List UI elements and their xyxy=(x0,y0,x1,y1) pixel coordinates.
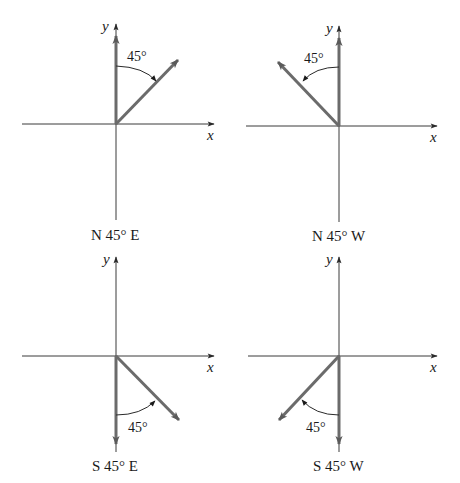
x-axis-label: x xyxy=(429,359,437,375)
angle-arc xyxy=(116,401,155,415)
panel-n45e: 45° y x N 45° E xyxy=(22,18,214,243)
angle-label: 45° xyxy=(128,420,148,435)
angle-label: 45° xyxy=(127,49,147,64)
y-axis-label: y xyxy=(324,251,333,267)
bearing-vector xyxy=(278,62,339,126)
panel-s45e: 45° y x S 45° E xyxy=(22,251,214,474)
angle-arc xyxy=(116,66,156,81)
angle-label: 45° xyxy=(304,51,324,66)
bearing-caption: N 45° W xyxy=(312,228,366,244)
bearing-vector xyxy=(116,356,179,420)
angle-label: 45° xyxy=(306,420,326,435)
y-axis-label: y xyxy=(324,20,333,36)
panel-n45w: 45° y x N 45° W xyxy=(246,20,437,244)
bearing-diagram: 45° y x N 45° E 45° y x N 45° W 45° y x … xyxy=(0,0,460,483)
y-axis-label: y xyxy=(101,251,110,267)
y-axis-label: y xyxy=(100,18,109,34)
x-axis-label: x xyxy=(206,359,214,375)
angle-arc xyxy=(302,400,339,415)
bearing-caption: S 45° W xyxy=(313,458,365,474)
bearing-vector xyxy=(116,60,178,124)
angle-arc xyxy=(303,67,339,81)
panel-s45w: 45° y x S 45° W xyxy=(248,251,437,474)
bearing-caption: N 45° E xyxy=(91,227,140,243)
x-axis-label: x xyxy=(429,129,437,145)
x-axis-label: x xyxy=(206,127,214,143)
bearing-vector xyxy=(279,356,339,420)
bearing-caption: S 45° E xyxy=(92,458,138,474)
